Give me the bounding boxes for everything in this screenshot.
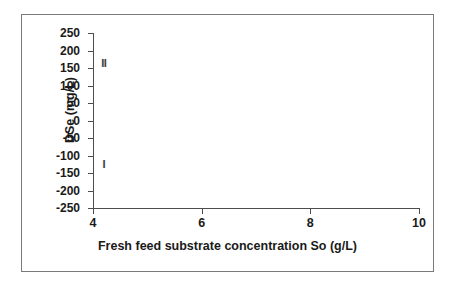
x-tick-label: 4 — [90, 217, 97, 230]
y-tick-mark — [88, 156, 93, 157]
y-tick-label: -150 — [56, 167, 80, 179]
y-tick-mark — [88, 86, 93, 87]
y-tick-label: 0 — [73, 115, 80, 127]
y-tick-mark — [88, 121, 93, 122]
y-tick-label: 100 — [60, 80, 80, 92]
x-tick-mark — [419, 208, 420, 214]
x-tick-label: 10 — [412, 217, 426, 230]
y-tick-mark — [88, 138, 93, 139]
y-tick-mark — [88, 33, 93, 34]
y-tick-label: 50 — [67, 97, 80, 109]
y-tick-label: 150 — [60, 62, 80, 74]
y-tick-label: -200 — [56, 185, 80, 197]
y-tick-label: 200 — [60, 45, 80, 57]
y-tick-label: 250 — [60, 27, 80, 39]
x-axis-line — [93, 208, 420, 209]
y-tick-mark — [88, 173, 93, 174]
x-tick-label: 8 — [307, 217, 314, 230]
x-tick-mark — [93, 208, 94, 214]
y-tick-label: -250 — [56, 202, 80, 214]
y-tick-mark — [88, 191, 93, 192]
figure-frame: DSe (mg/L) 250200150100500-50-100-150-20… — [21, 14, 434, 272]
y-tick-mark — [88, 51, 93, 52]
x-tick-label: 6 — [198, 217, 205, 230]
x-tick-mark — [310, 208, 311, 214]
y-tick-label: -100 — [56, 150, 80, 162]
data-point-marker: I — [103, 159, 106, 170]
x-tick-mark — [202, 208, 203, 214]
y-tick-label: -50 — [63, 132, 80, 144]
data-point-marker: II — [101, 57, 106, 68]
y-tick-mark — [88, 103, 93, 104]
plot-area: 250200150100500-50-100-150-200-250 46810… — [93, 33, 419, 208]
x-axis-title: Fresh feed substrate concentration So (g… — [22, 239, 433, 253]
y-axis-line — [93, 33, 94, 209]
y-tick-mark — [88, 68, 93, 69]
